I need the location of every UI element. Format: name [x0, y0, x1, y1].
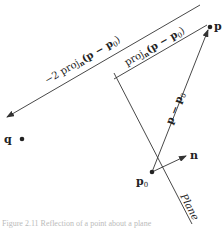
label-plane: Plane: [178, 191, 201, 222]
label-p0: p0: [136, 175, 148, 189]
figure-caption: Figure 2.11 Reflection of a point about …: [2, 219, 151, 228]
label-neg2-proj: −2 projn(p − p0): [43, 33, 124, 87]
label-n: n: [190, 149, 198, 162]
neg2-proj-vector: [7, 5, 200, 117]
label-p-minus-p0: p − p0: [164, 90, 189, 126]
point-q: [20, 137, 25, 142]
label-q: q: [4, 133, 12, 146]
proj-vector-line: [114, 25, 207, 79]
label-p: p: [214, 20, 222, 33]
point-p0: [150, 170, 155, 175]
reflection-diagram: p q n p0 Plane p − p0 projn(p − p0) −2 p…: [0, 0, 222, 228]
point-p: [208, 25, 213, 30]
